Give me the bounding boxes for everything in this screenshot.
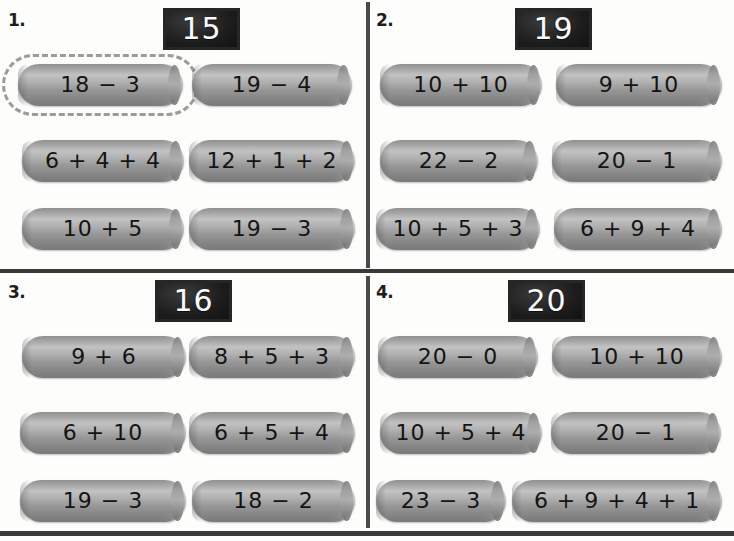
rod-row-1-2: 6 + 4 + 412 + 1 + 2 (0, 140, 366, 182)
rod-row-2-1: 10 + 109 + 10 (368, 64, 734, 106)
expression-rod[interactable]: 23 − 3 (376, 480, 506, 522)
expression-label: 10 + 10 (413, 74, 508, 96)
target-number-value-3: 16 (173, 286, 213, 316)
expression-label: 10 + 5 (63, 218, 143, 240)
expression-label: 10 + 5 + 3 (393, 218, 524, 240)
expression-label: 6 + 9 + 4 (580, 218, 696, 240)
expression-rod[interactable]: 9 + 6 (22, 336, 186, 378)
expression-rod[interactable]: 9 + 10 (556, 64, 722, 106)
expression-label: 18 − 3 (60, 74, 140, 96)
expression-rod[interactable]: 19 − 3 (20, 480, 186, 522)
target-number-box-4: 20 (508, 280, 585, 322)
expression-rod[interactable]: 6 + 9 + 4 (554, 208, 722, 250)
rod-row-3-1: 9 + 68 + 5 + 3 (0, 336, 366, 378)
expression-rod[interactable]: 22 − 2 (380, 140, 538, 182)
problem-number-3: 3. (8, 282, 25, 302)
expression-label: 6 + 9 + 4 + 1 (534, 490, 700, 512)
expression-label: 19 − 3 (63, 490, 143, 512)
target-number-value-4: 20 (526, 286, 566, 316)
target-number-box-3: 16 (155, 280, 232, 322)
expression-rod[interactable]: 18 − 3 (18, 64, 183, 106)
expression-rod[interactable]: 20 − 1 (552, 140, 722, 182)
expression-label: 20 − 0 (418, 346, 498, 368)
worksheet-page: 1. 15 18 − 319 − 4 6 + 4 + 412 + 1 + 2 1… (0, 0, 734, 541)
problem-number-1: 1. (8, 10, 25, 30)
expression-rod[interactable]: 10 + 10 (552, 336, 722, 378)
expression-rod[interactable]: 19 − 4 (192, 64, 352, 106)
problem-1: 1. 15 18 − 319 − 4 6 + 4 + 412 + 1 + 2 1… (0, 0, 366, 268)
expression-rod[interactable]: 10 + 5 + 3 (376, 208, 540, 250)
expression-rod[interactable]: 6 + 10 (20, 412, 186, 454)
expression-rod[interactable]: 8 + 5 + 3 (189, 336, 355, 378)
rod-row-1-1: 18 − 319 − 4 (0, 64, 366, 106)
expression-rod[interactable]: 6 + 4 + 4 (22, 140, 184, 182)
rod-row-4-1: 20 − 010 + 10 (368, 336, 734, 378)
expression-label: 23 − 3 (401, 490, 481, 512)
expression-label: 8 + 5 + 3 (214, 346, 330, 368)
expression-rod[interactable]: 6 + 9 + 4 + 1 (512, 480, 722, 522)
expression-rod[interactable]: 19 − 3 (189, 208, 355, 250)
expression-label: 9 + 6 (71, 346, 136, 368)
rod-row-2-2: 22 − 220 − 1 (368, 140, 734, 182)
rod-row-3-3: 19 − 318 − 2 (0, 480, 366, 522)
expression-label: 22 − 2 (419, 150, 499, 172)
expression-label: 20 − 1 (597, 150, 677, 172)
rod-row-3-2: 6 + 106 + 5 + 4 (0, 412, 366, 454)
problem-number-2: 2. (376, 10, 393, 30)
rod-row-4-3: 23 − 36 + 9 + 4 + 1 (368, 480, 734, 522)
rod-row-4-2: 10 + 5 + 420 − 1 (368, 412, 734, 454)
expression-label: 12 + 1 + 2 (207, 150, 338, 172)
expression-rod[interactable]: 20 − 1 (551, 412, 721, 454)
expression-label: 19 − 3 (232, 218, 312, 240)
expression-label: 18 − 2 (233, 490, 313, 512)
expression-label: 20 − 1 (596, 422, 676, 444)
problem-number-4: 4. (376, 282, 393, 302)
expression-label: 6 + 10 (63, 422, 143, 444)
expression-label: 6 + 5 + 4 (214, 422, 330, 444)
target-number-value-1: 15 (181, 14, 221, 44)
expression-rod[interactable]: 10 + 5 (22, 208, 184, 250)
expression-rod[interactable]: 10 + 5 + 4 (380, 412, 542, 454)
problem-2: 2. 19 10 + 109 + 10 22 − 220 − 1 10 + 5 … (368, 0, 734, 268)
problem-4: 4. 20 20 − 010 + 10 10 + 5 + 420 − 1 23 … (368, 272, 734, 540)
target-number-value-2: 19 (533, 14, 573, 44)
expression-label: 10 + 5 + 4 (396, 422, 527, 444)
expression-label: 10 + 10 (589, 346, 684, 368)
expression-rod[interactable]: 12 + 1 + 2 (189, 140, 355, 182)
expression-label: 19 − 4 (232, 74, 312, 96)
expression-label: 9 + 10 (599, 74, 679, 96)
expression-rod[interactable]: 20 − 0 (378, 336, 538, 378)
problem-3: 3. 16 9 + 68 + 5 + 3 6 + 106 + 5 + 4 19 … (0, 272, 366, 540)
expression-rod[interactable]: 6 + 5 + 4 (189, 412, 355, 454)
expression-rod[interactable]: 10 + 10 (380, 64, 542, 106)
target-number-box-2: 19 (515, 8, 592, 50)
target-number-box-1: 15 (163, 8, 240, 50)
rod-row-2-3: 10 + 5 + 36 + 9 + 4 (368, 208, 734, 250)
expression-rod[interactable]: 18 − 2 (192, 480, 355, 522)
rod-row-1-3: 10 + 519 − 3 (0, 208, 366, 250)
expression-label: 6 + 4 + 4 (45, 150, 161, 172)
